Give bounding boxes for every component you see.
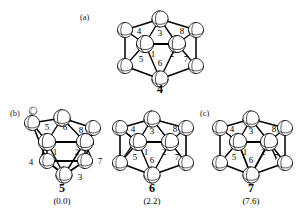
structure-name-7: 7 [248, 181, 254, 196]
structure-4-atoms [117, 11, 203, 87]
vertex-label-5: 5 [139, 54, 144, 64]
atom-sphere [29, 107, 37, 115]
structure-5-graphic: 1 2 3 4 5 6 7 8 [24, 107, 102, 183]
vertex-label-8: 8 [272, 124, 277, 134]
vertex-label-1: 1 [144, 147, 149, 157]
vertex-label-3: 3 [150, 126, 155, 136]
atom-sphere [85, 120, 100, 135]
vertex-label-3: 3 [78, 172, 83, 182]
vertex-label-8: 8 [173, 124, 178, 134]
structure-name-4: 4 [157, 82, 163, 97]
atom-sphere [243, 111, 259, 127]
vertex-label-4: 4 [137, 26, 142, 36]
vertex-label-8: 8 [79, 125, 84, 135]
panel-label-b: (b) [10, 108, 20, 118]
atom-sphere [178, 120, 193, 135]
vertex-label-7: 7 [184, 54, 189, 64]
vertex-label-1: 1 [151, 49, 156, 59]
structure-name-5: 5 [59, 181, 65, 196]
vertex-label-4: 4 [230, 124, 235, 134]
atom-sphere [212, 155, 227, 170]
vertex-label-2: 2 [170, 49, 175, 59]
vertex-label-6: 6 [249, 155, 254, 165]
vertex-label-7: 7 [274, 152, 279, 162]
vertex-label-6: 6 [158, 58, 163, 68]
structure-6-graphic: 1 2 3 4 5 6 7 8 [112, 111, 193, 183]
atom-sphere [277, 120, 292, 135]
vertex-label-3: 3 [158, 28, 163, 38]
atom-sphere [77, 153, 92, 168]
vertex-label-2: 2 [261, 147, 266, 157]
structure-energy-7: (7.6) [242, 196, 259, 206]
vertex-label-2: 2 [75, 147, 80, 157]
vertex-label-4: 4 [29, 157, 34, 167]
vertex-label-8: 8 [180, 26, 185, 36]
vertex-label-3: 3 [249, 126, 254, 136]
structure-5-atoms [24, 107, 100, 183]
panel-label-a: (a) [80, 12, 89, 22]
vertex-label-5: 5 [133, 152, 138, 162]
atom-sphere [112, 155, 127, 170]
structure-energy-6: (2.2) [143, 196, 160, 206]
structure-7-atoms [212, 111, 292, 183]
atom-sphere [24, 115, 39, 130]
atom-sphere [277, 155, 292, 170]
vertex-label-7: 7 [98, 156, 103, 166]
atom-sphere [178, 155, 193, 170]
vertex-label-6: 6 [63, 122, 68, 132]
atom-sphere [152, 11, 168, 27]
atom-sphere [212, 120, 227, 135]
atom-sphere [144, 111, 160, 127]
atom-sphere [188, 58, 203, 73]
vertex-label-6: 6 [150, 155, 155, 165]
vertex-label-4: 4 [131, 124, 136, 134]
panel-label-c: (c) [200, 108, 209, 118]
vertex-label-5: 5 [45, 122, 50, 132]
vertex-label-7: 7 [175, 152, 180, 162]
figure-canvas: (a) (b) (c) 4 5 (0.0) 6 (2.2) 7 (7.6) [0, 0, 307, 223]
atom-sphere [188, 22, 203, 37]
atom-sphere [117, 22, 132, 37]
structure-7-graphic: 1 2 3 4 5 6 7 8 [212, 111, 292, 183]
structure-name-6: 6 [149, 181, 155, 196]
structure-energy-5: (0.0) [53, 196, 70, 206]
structure-6-atoms [112, 111, 193, 183]
vertex-label-5: 5 [232, 152, 237, 162]
atom-sphere [117, 58, 132, 73]
structure-4-graphic: 1 2 3 4 5 6 7 8 [117, 11, 203, 87]
vertex-label-1: 1 [53, 147, 58, 157]
atom-sphere [112, 120, 127, 135]
vertex-label-1: 1 [243, 147, 248, 157]
vertex-label-2: 2 [162, 147, 167, 157]
